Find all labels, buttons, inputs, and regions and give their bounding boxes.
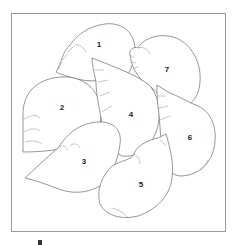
shell-label-4: 4 bbox=[129, 110, 134, 119]
shell-label-3: 3 bbox=[82, 157, 87, 166]
shell-label-1: 1 bbox=[97, 40, 102, 49]
shell-label-6: 6 bbox=[188, 133, 193, 142]
shell-label-2: 2 bbox=[60, 103, 65, 112]
shell-label-5: 5 bbox=[139, 180, 144, 189]
cropped-caption-mark bbox=[38, 240, 42, 245]
shell-label-7: 7 bbox=[165, 65, 170, 74]
shells-figure: 1 2 3 4 5 6 7 bbox=[0, 0, 237, 245]
